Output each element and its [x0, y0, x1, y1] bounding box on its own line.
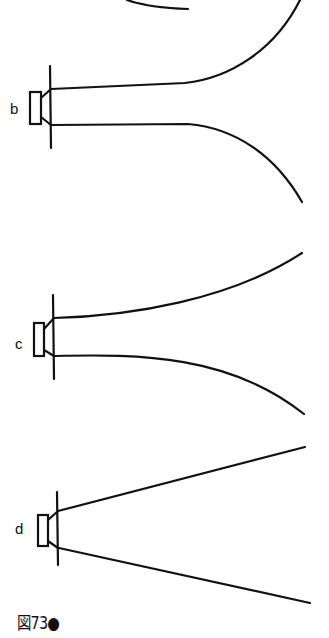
horn-b-driver	[30, 92, 41, 124]
figure-caption: 図73●	[17, 609, 59, 634]
horn-b-baffle	[50, 66, 51, 148]
horn-c: c	[15, 253, 304, 414]
horn-c-driver	[34, 323, 44, 356]
horn-b-lower-wall	[52, 124, 302, 202]
horn-c-lower-wall	[55, 355, 304, 414]
horn-c-label: c	[15, 335, 23, 352]
horn-d-lower-wall	[59, 548, 310, 603]
horn-b-label: b	[10, 100, 18, 117]
horn-a-partial	[127, 0, 188, 9]
horn-d-upper-wall	[58, 447, 305, 511]
horn-b-upper-wall	[51, 0, 300, 89]
horn-c-baffle	[53, 295, 54, 379]
horn-d-baffle	[57, 492, 58, 565]
horn-a-arc	[127, 0, 188, 9]
horn-d-driver	[38, 515, 48, 546]
horn-speaker-diagram: b c d	[0, 0, 329, 638]
horn-b-throat-lower	[41, 117, 51, 125]
horn-d-throat-lower	[48, 541, 58, 548]
horn-d: d	[15, 447, 310, 603]
horn-d-label: d	[15, 520, 23, 537]
horn-c-throat-lower	[44, 350, 54, 356]
horn-b: b	[10, 0, 302, 202]
horn-c-upper-wall	[54, 253, 302, 318]
